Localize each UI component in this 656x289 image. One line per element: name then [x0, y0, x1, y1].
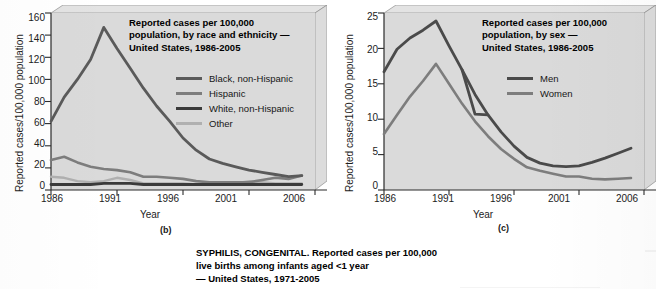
- chart-panel-b: Reported cases/100,000 population 0 20 4…: [0, 0, 330, 230]
- legend-swatch-men: [507, 77, 533, 80]
- panel-b-label: (b): [160, 225, 172, 235]
- chart-panel-c: Reported cases/100,000 population 0 5 10…: [330, 0, 656, 230]
- legend-label-hispanic: Hispanic: [209, 88, 245, 99]
- legend-label-white-non-hispanic: White, non-Hispanic: [209, 103, 294, 114]
- legend-item-white-non-hispanic: White, non-Hispanic: [176, 101, 294, 116]
- panel-b-legend: Black, non-Hispanic Hispanic White, non-…: [176, 71, 294, 131]
- panel-c-legend: Men Women: [507, 71, 573, 101]
- panel-b-x-axis-title: Year: [130, 209, 170, 220]
- legend-item-women: Women: [507, 86, 573, 101]
- legend-swatch-women: [507, 92, 533, 95]
- legend-item-other: Other: [176, 116, 294, 131]
- panel-b-series-white-non-hispanic: [51, 183, 302, 184]
- panel-c-x-axis-title: Year: [463, 209, 503, 220]
- scan-smudge-right: [645, 250, 656, 252]
- legend-swatch-black-non-hispanic: [176, 77, 202, 80]
- legend-label-women: Women: [540, 88, 573, 99]
- panel-c-plot-title: Reported cases per 100,000 population, b…: [482, 17, 656, 54]
- scan-smudge-bottom: [460, 287, 600, 288]
- legend-item-men: Men: [507, 71, 573, 86]
- figure-caption: SYPHILIS, CONGENITAL. Reported cases per…: [196, 246, 616, 285]
- legend-swatch-other: [176, 122, 202, 125]
- legend-item-hispanic: Hispanic: [176, 86, 294, 101]
- panel-c-label: (c): [498, 223, 509, 233]
- legend-label-other: Other: [209, 118, 233, 129]
- figure-syphilis-congenital: Reported cases/100,000 population 0 20 4…: [0, 0, 656, 289]
- panel-b-plot-title: Reported cases per 100,000 population, b…: [129, 17, 319, 54]
- legend-item-black-non-hispanic: Black, non-Hispanic: [176, 71, 294, 86]
- legend-swatch-white-non-hispanic: [176, 107, 202, 110]
- legend-swatch-hispanic: [176, 92, 202, 95]
- legend-label-black-non-hispanic: Black, non-Hispanic: [209, 73, 293, 84]
- legend-label-men: Men: [540, 73, 558, 84]
